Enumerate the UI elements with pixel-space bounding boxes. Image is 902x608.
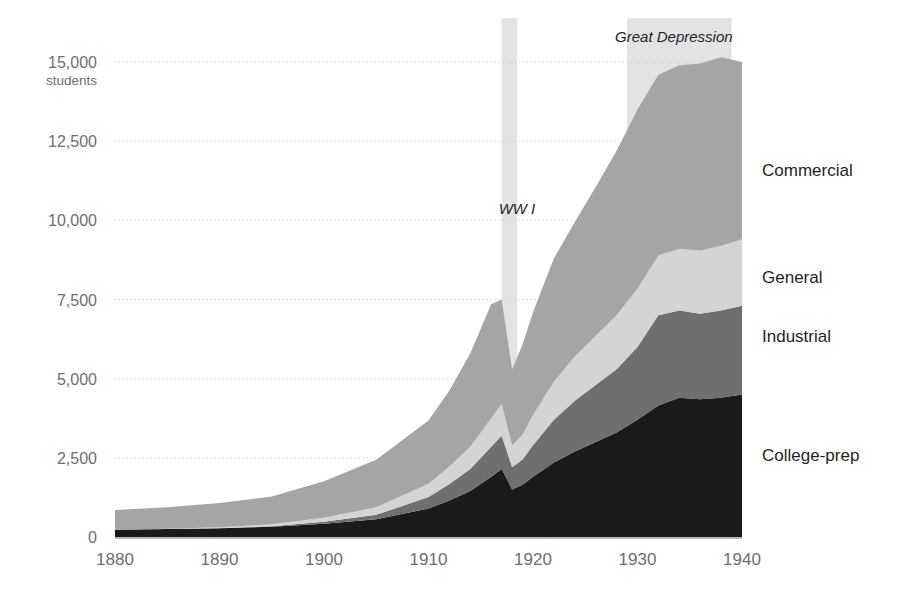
x-tick-label-1900: 1900 — [305, 550, 343, 569]
chart-container: 15,000students12,50010,0007,5005,0002,50… — [0, 0, 902, 608]
y-tick-label-5000: 5,000 — [57, 371, 97, 388]
event-label-ww1: WW I — [499, 200, 536, 217]
series-label-industrial: Industrial — [762, 327, 831, 346]
y-tick-label-7500: 7,500 — [57, 292, 97, 309]
x-tick-label-1890: 1890 — [201, 550, 239, 569]
event-label-great-depression: Great Depression — [615, 28, 733, 45]
y-tick-label-2500: 2,500 — [57, 450, 97, 467]
series-label-general: General — [762, 268, 822, 287]
y-tick-label-0: 0 — [88, 529, 97, 546]
series-label-group: CommercialGeneralIndustrialCollege-prep — [762, 161, 859, 465]
x-axis-label-group: 1880189019001910192019301940 — [96, 550, 761, 569]
x-tick-label-1880: 1880 — [96, 550, 134, 569]
x-tick-label-1910: 1910 — [410, 550, 448, 569]
y-axis-label-group: 15,000students12,50010,0007,5005,0002,50… — [46, 54, 97, 546]
stacked-area-chart: 15,000students12,50010,0007,5005,0002,50… — [0, 0, 902, 608]
series-label-commercial: Commercial — [762, 161, 853, 180]
series-label-college-prep: College-prep — [762, 446, 859, 465]
area-series-group — [115, 57, 742, 537]
y-tick-label-12500: 12,500 — [48, 133, 97, 150]
y-tick-label-10000: 10,000 — [48, 212, 97, 229]
y-tick-label-15000: 15,000 — [48, 54, 97, 71]
y-axis-unit-label: students — [46, 73, 97, 88]
x-tick-label-1930: 1930 — [619, 550, 657, 569]
x-tick-label-1920: 1920 — [514, 550, 552, 569]
x-tick-label-1940: 1940 — [723, 550, 761, 569]
